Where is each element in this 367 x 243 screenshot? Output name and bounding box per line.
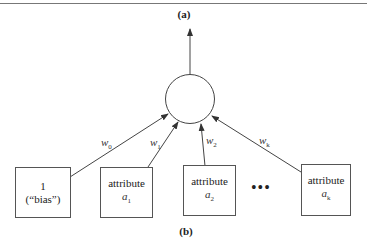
input-box-a2: attribute a2 — [183, 165, 236, 216]
input-box-a1: attribute a1 — [100, 167, 153, 218]
ellipsis-dots: ••• — [251, 183, 271, 193]
input-box-ak: attribute ak — [301, 164, 351, 216]
weight-label-w2: w2 — [206, 134, 217, 149]
panel-label-b: (b) — [179, 225, 192, 237]
bias-label: (“bias”) — [26, 193, 61, 206]
attribute-label: attribute — [191, 175, 228, 188]
attribute-label: attribute — [308, 174, 345, 187]
neuron-circle — [166, 75, 215, 124]
attribute-label: attribute — [108, 177, 145, 190]
weight-label-w0: w0 — [101, 136, 112, 151]
weight-label-w1: w1 — [150, 136, 161, 151]
input-box-bias: 1 (“bias”) — [15, 167, 71, 218]
edge-w2 — [201, 124, 205, 166]
edge-wk — [212, 116, 301, 172]
bias-value: 1 — [40, 180, 46, 193]
attribute-var: ak — [322, 187, 331, 205]
attribute-var: a2 — [205, 188, 214, 206]
weight-label-wk: wk — [259, 134, 270, 149]
attribute-var: a1 — [122, 190, 131, 208]
